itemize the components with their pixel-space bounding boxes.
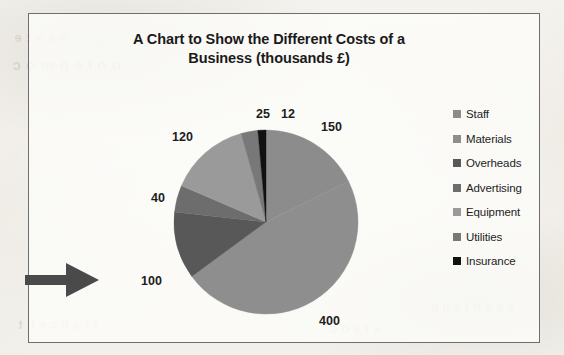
legend-item-overheads: Overheads [453,151,549,176]
slice-value-label: 400 [319,314,340,328]
chart-frame: A Chart to Show the Different Costs of a… [28,13,540,343]
slice-value-label: 120 [172,130,193,144]
right-pointing-arrow-icon [25,257,105,303]
legend-swatch-icon [453,257,461,265]
slice-value-label: 150 [321,120,342,134]
slice-value-label: 25 [256,107,270,121]
legend-label: Insurance [466,255,516,267]
chart-legend: StaffMaterialsOverheadsAdvertisingEquipm… [453,102,549,274]
legend-label: Equipment [466,206,520,218]
legend-label: Utilities [466,231,502,243]
legend-item-utilities: Utilities [453,225,549,250]
slice-value-label: 100 [141,274,162,288]
legend-swatch-icon [453,184,461,192]
legend-swatch-icon [453,233,461,241]
legend-item-insurance: Insurance [453,249,549,274]
legend-swatch-icon [453,135,461,143]
legend-item-equipment: Equipment [453,200,549,225]
legend-item-materials: Materials [453,127,549,152]
legend-swatch-icon [453,110,461,118]
legend-swatch-icon [453,159,461,167]
legend-label: Staff [466,108,489,120]
slice-value-label: 40 [151,191,165,205]
legend-label: Advertising [466,182,522,194]
legend-item-advertising: Advertising [453,176,549,201]
legend-label: Overheads [466,157,521,169]
legend-label: Materials [466,133,512,145]
legend-swatch-icon [453,208,461,216]
slice-value-label: 12 [281,107,295,121]
legend-item-staff: Staff [453,102,549,127]
